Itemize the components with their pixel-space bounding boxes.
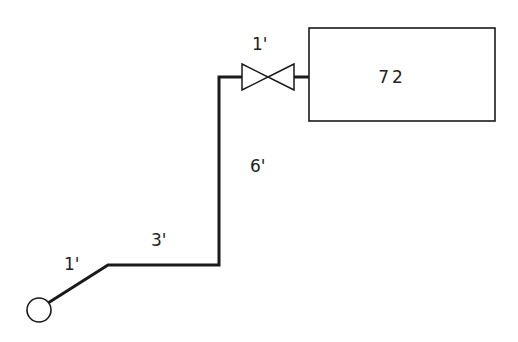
horizontal-length-label: 3'	[151, 230, 167, 250]
tank-label: 72	[378, 67, 406, 87]
valve-length-label: 1'	[252, 34, 268, 54]
valve-icon	[242, 64, 294, 90]
source-circle-icon	[27, 298, 51, 322]
diagonal-length-label: 1'	[64, 254, 80, 274]
piping-diagram: 72 1' 6' 3' 1'	[0, 0, 518, 342]
riser-length-label: 6'	[250, 156, 266, 176]
